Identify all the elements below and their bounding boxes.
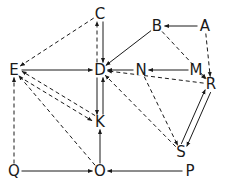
node-k: K bbox=[95, 113, 106, 131]
node-b: B bbox=[152, 17, 162, 35]
edge-s-to-d bbox=[105, 75, 175, 146]
edge-k-to-e bbox=[22, 71, 95, 115]
edge-e-to-k bbox=[19, 76, 92, 120]
edge-a-to-r bbox=[206, 34, 210, 77]
node-e: E bbox=[9, 61, 18, 79]
node-d: D bbox=[94, 61, 106, 79]
edge-s-to-r bbox=[181, 90, 205, 144]
node-m: M bbox=[190, 61, 203, 79]
edge-c-to-e bbox=[20, 18, 93, 66]
node-q: Q bbox=[8, 162, 20, 180]
edge-o-to-e bbox=[19, 76, 95, 166]
edge-r-to-s bbox=[187, 92, 211, 146]
node-n: N bbox=[135, 61, 146, 79]
node-c: C bbox=[95, 5, 105, 23]
node-o: O bbox=[94, 162, 106, 180]
graph-diagram: CBAEDNMRKSQOP bbox=[0, 0, 225, 183]
edge-n-to-s bbox=[144, 77, 177, 146]
node-r: R bbox=[206, 75, 216, 93]
node-p: P bbox=[185, 162, 194, 180]
node-s: S bbox=[176, 143, 186, 161]
nodes-layer: CBAEDNMRKSQOP bbox=[8, 5, 217, 180]
node-a: A bbox=[200, 17, 211, 35]
